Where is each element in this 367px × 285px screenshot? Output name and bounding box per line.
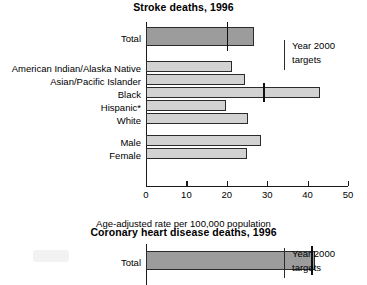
axis-ticklabel-40: 40 <box>291 189 325 200</box>
category-label-total-chd: Total <box>0 257 141 268</box>
figure: Stroke deaths, 1996 0 10 20 30 40 50 Tot… <box>0 0 367 285</box>
target-marker-black <box>263 83 265 102</box>
plot-area-coronary-heart-disease: Total Year 2000 targets <box>0 242 367 285</box>
axis-ticklabel-20: 20 <box>210 189 244 200</box>
bar-asian-pacific-islander <box>146 74 245 85</box>
bar-black <box>146 87 320 98</box>
category-label-total: Total <box>0 33 141 44</box>
bar-hispanic <box>146 100 226 111</box>
axis-tick-30 <box>267 181 268 186</box>
scan-artifact <box>33 250 69 262</box>
category-label-hispanic: Hispanic* <box>0 102 141 113</box>
axis-ticklabel-30: 30 <box>250 189 284 200</box>
plot-area-stroke: 0 10 20 30 40 50 Total American Indian/A… <box>0 18 367 198</box>
axis-tick-0 <box>146 181 147 186</box>
bar-female <box>146 148 247 159</box>
axis-ticklabel-0: 0 <box>129 189 163 200</box>
axis-ticklabel-50: 50 <box>331 189 365 200</box>
legend-label-chd-line2: targets <box>292 261 335 275</box>
category-label-black: Black <box>0 89 141 100</box>
axis-tick-50 <box>348 181 349 186</box>
bar-total <box>146 27 254 46</box>
legend-label-chd: Year 2000 targets <box>292 247 335 275</box>
legend-label-chd-line1: Year 2000 <box>292 247 335 261</box>
legend-target-marker-icon-chd <box>284 248 285 278</box>
legend-label-line2: targets <box>292 53 335 67</box>
category-label-asian-pacific-islander: Asian/Pacific Islander <box>0 76 141 87</box>
bar-male <box>146 135 261 146</box>
category-label-male: Male <box>0 137 141 148</box>
category-label-american-indian-alaska-native: American Indian/Alaska Native <box>0 63 141 74</box>
category-label-white: White <box>0 115 141 126</box>
chart-title-coronary-heart-disease: Coronary heart disease deaths, 1996 <box>0 226 367 238</box>
legend-label-line1: Year 2000 <box>292 39 335 53</box>
legend-target-marker-icon <box>284 40 285 70</box>
axis-ticklabel-10: 10 <box>169 189 203 200</box>
legend-label: Year 2000 targets <box>292 39 335 67</box>
target-marker-total <box>227 22 229 51</box>
chart-title-stroke: Stroke deaths, 1996 <box>0 1 367 13</box>
axis-tick-40 <box>308 181 309 186</box>
category-label-female: Female <box>0 150 141 161</box>
bar-american-indian-alaska-native <box>146 61 232 72</box>
bar-white <box>146 113 248 124</box>
value-axis-line <box>146 186 348 187</box>
axis-tick-10 <box>186 181 187 186</box>
bar-total-chd <box>146 251 315 270</box>
axis-tick-20 <box>227 181 228 186</box>
